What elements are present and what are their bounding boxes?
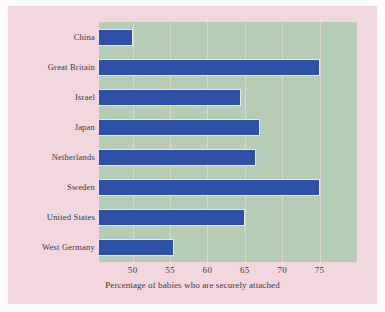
bar-row — [99, 82, 357, 112]
y-axis-label-netherlands: Netherlands — [4, 152, 95, 162]
bar-row — [99, 232, 357, 262]
y-axis-label-israel: Israel — [4, 92, 95, 102]
x-tick-label-75: 75 — [315, 265, 325, 275]
y-axis-label-japan: Japan — [4, 122, 95, 132]
y-axis-label-united-states: United States — [4, 212, 95, 222]
bar-israel — [99, 89, 241, 106]
x-axis-tick-labels: 505560657075 — [99, 265, 357, 279]
bar-row — [99, 112, 357, 142]
bar-row — [99, 202, 357, 232]
y-axis-label-china: China — [4, 32, 95, 42]
bar-japan — [99, 119, 260, 136]
y-axis-category-labels: ChinaGreat BritainIsraelJapanNetherlands… — [4, 22, 95, 262]
x-tick-label-60: 60 — [203, 265, 213, 275]
bar-great-britain — [99, 59, 320, 76]
y-axis-label-sweden: Sweden — [4, 182, 95, 192]
x-tick-label-70: 70 — [277, 265, 287, 275]
bar-west-germany — [99, 239, 174, 256]
bar-row — [99, 52, 357, 82]
bar-united-states — [99, 209, 245, 226]
chart-figure: ChinaGreat BritainIsraelJapanNetherlands… — [0, 0, 385, 312]
bar-netherlands — [99, 149, 256, 166]
x-tick-label-55: 55 — [165, 265, 175, 275]
plot-area — [99, 22, 357, 262]
x-tick-label-65: 65 — [240, 265, 250, 275]
y-axis-label-west-germany: West Germany — [4, 242, 95, 252]
bar-sweden — [99, 179, 320, 196]
x-axis-title: Percentage of babies who are securely at… — [8, 280, 377, 290]
bar-row — [99, 142, 357, 172]
bar-china — [99, 29, 133, 46]
bar-row — [99, 22, 357, 52]
bar-row — [99, 172, 357, 202]
x-tick-label-50: 50 — [128, 265, 138, 275]
y-axis-label-great-britain: Great Britain — [4, 62, 95, 72]
